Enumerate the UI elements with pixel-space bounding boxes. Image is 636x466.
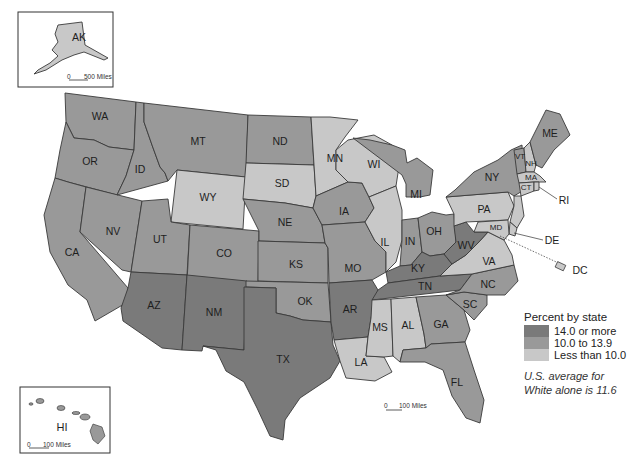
legend-swatch-high: [524, 325, 549, 337]
mainland-scale: 0 100 Miles: [384, 402, 428, 410]
dc-inset-shape: [555, 262, 566, 271]
legend-label-high: 14.0 or more: [554, 325, 616, 337]
hawaii-label: HI: [57, 421, 68, 433]
alaska-scale-zero: 0: [67, 73, 71, 80]
state-label-or: OR: [82, 155, 98, 167]
state-label-vt: VT: [515, 152, 525, 161]
callout-line-de: [514, 233, 543, 240]
legend: Percent by state 14.0 or more 10.0 to 13…: [524, 311, 636, 397]
state-label-dc: DC: [572, 264, 588, 276]
state-label-pa: PA: [477, 203, 490, 215]
state-label-co: CO: [216, 247, 232, 259]
hawaii-inset: HI 0 100 Miles: [20, 387, 110, 453]
state-label-az: AZ: [147, 299, 161, 311]
state-label-mt: MT: [190, 135, 206, 147]
state-fl: [400, 342, 484, 423]
state-label-ok: OK: [297, 295, 312, 307]
legend-note-line1: U.S. average for: [524, 369, 636, 383]
mainland-scale-label: 100 Miles: [399, 402, 428, 409]
alaska-label: AK: [72, 31, 86, 43]
state-label-ny: NY: [485, 171, 500, 183]
state-label-la: LA: [355, 356, 368, 368]
state-label-ca: CA: [65, 246, 80, 258]
state-label-al: AL: [402, 319, 415, 331]
state-label-va: VA: [482, 255, 495, 267]
state-label-wv: WV: [458, 239, 475, 251]
state-label-ct: CT: [521, 183, 532, 192]
state-label-wi: WI: [368, 158, 381, 170]
state-label-mo: MO: [345, 262, 362, 274]
alaska-scale-label: 500 Miles: [84, 73, 113, 80]
state-label-sd: SD: [275, 177, 290, 189]
state-label-ga: GA: [433, 318, 448, 330]
state-label-il: IL: [381, 236, 390, 248]
legend-swatch-low: [524, 349, 549, 361]
state-az: [121, 272, 187, 350]
state-ri: [534, 182, 539, 191]
state-label-ks: KS: [289, 258, 303, 270]
state-label-ar: AR: [343, 303, 358, 315]
legend-item-low: Less than 10.0: [524, 349, 636, 361]
state-label-nh: NH: [525, 159, 537, 168]
hawaii-island-oahu: [57, 406, 65, 411]
hawaii-scale-zero: 0: [27, 441, 31, 448]
state-label-sc: SC: [463, 298, 478, 310]
state-label-nm: NM: [206, 306, 222, 318]
state-label-wy: WY: [200, 191, 217, 203]
state-label-ms: MS: [372, 321, 388, 333]
hawaii-scale-label: 100 Miles: [43, 441, 72, 448]
state-label-nd: ND: [272, 135, 288, 147]
legend-swatch-mid: [524, 337, 549, 349]
legend-label-mid: 10.0 to 13.9: [554, 337, 612, 349]
legend-note: U.S. average for White alone is 11.6: [524, 369, 636, 397]
legend-title: Percent by state: [524, 311, 636, 323]
state-label-md: MD: [490, 223, 503, 232]
state-label-ri: RI: [559, 194, 570, 206]
hawaii-island-kauai: [36, 399, 44, 404]
state-label-tx: TX: [276, 353, 289, 365]
legend-item-high: 14.0 or more: [524, 325, 636, 337]
state-label-nv: NV: [106, 225, 121, 237]
legend-note-line2: White alone is 11.6: [524, 383, 636, 397]
mainland-scale-zero: 0: [384, 402, 388, 409]
callout-line-ri: [539, 187, 557, 199]
state-label-fl: FL: [451, 376, 463, 388]
state-label-id: ID: [135, 163, 146, 175]
state-label-de: DE: [545, 234, 560, 246]
state-label-ia: IA: [339, 205, 349, 217]
state-label-wa: WA: [92, 110, 109, 122]
state-label-ky: KY: [411, 262, 425, 274]
state-label-ma: MA: [525, 173, 538, 182]
legend-label-low: Less than 10.0: [554, 349, 626, 361]
hawaii-island-maui: [80, 414, 90, 420]
legend-item-mid: 10.0 to 13.9: [524, 337, 636, 349]
hawaii-island-niihau: [29, 403, 33, 405]
state-label-mi: MI: [410, 188, 422, 200]
state-label-in: IN: [405, 235, 416, 247]
state-label-tn: TN: [418, 280, 432, 292]
state-label-ne: NE: [278, 216, 293, 228]
state-label-me: ME: [542, 127, 558, 139]
hawaii-island-molokai: [72, 412, 80, 415]
state-label-oh: OH: [426, 225, 442, 237]
state-label-nc: NC: [480, 278, 496, 290]
state-label-mn: MN: [327, 152, 343, 164]
alaska-inset: AK 0 500 Miles: [18, 12, 113, 87]
state-label-ut: UT: [153, 233, 168, 245]
